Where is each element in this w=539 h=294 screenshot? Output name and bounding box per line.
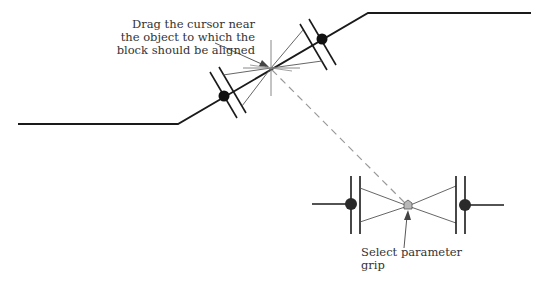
drag-instruction-label: Drag the cursor near the object to which… (117, 18, 255, 57)
grip-instruction-line-2: grip (361, 259, 462, 272)
grip-callout-arrow (404, 210, 411, 248)
connector-dot-right (317, 34, 328, 45)
connector-dot-left-lower (345, 198, 357, 210)
connector-dot-left (219, 91, 230, 102)
grip-instruction-label: Select parameter grip (361, 246, 462, 272)
drag-instruction-line-3: block should be aligned (117, 44, 255, 57)
drag-path-dashed (272, 70, 406, 204)
connector-dot-right-lower (459, 199, 471, 211)
parameter-grip-icon[interactable] (404, 200, 412, 209)
